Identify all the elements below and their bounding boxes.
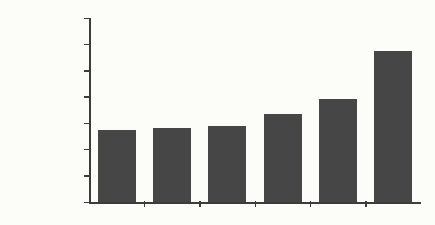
bar <box>153 128 191 202</box>
x-axis-tick <box>365 201 367 207</box>
y-axis-line <box>89 18 91 202</box>
y-axis-tick <box>84 18 89 20</box>
bar <box>374 51 412 202</box>
x-axis-tick <box>199 201 201 207</box>
x-axis-tick <box>144 201 146 207</box>
x-axis-tick <box>310 201 312 207</box>
bar-chart <box>0 0 435 225</box>
y-axis-tick <box>84 123 89 125</box>
bar <box>264 114 302 202</box>
y-axis-tick <box>84 44 89 46</box>
bar <box>319 99 357 202</box>
x-axis-tick <box>255 201 257 207</box>
bar <box>208 126 246 202</box>
y-axis-tick <box>84 70 89 72</box>
y-axis-tick <box>84 202 89 204</box>
y-axis-tick <box>84 149 89 151</box>
y-axis-tick <box>84 96 89 98</box>
bar <box>98 130 136 202</box>
y-axis-tick <box>84 175 89 177</box>
